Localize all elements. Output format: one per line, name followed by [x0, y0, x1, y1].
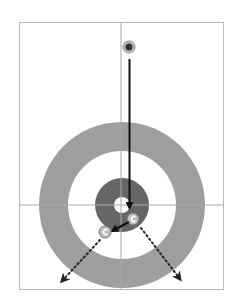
target-stone-left-icon	[99, 226, 111, 238]
thrower-stone-icon	[123, 41, 135, 53]
curling-diagram	[0, 0, 238, 301]
